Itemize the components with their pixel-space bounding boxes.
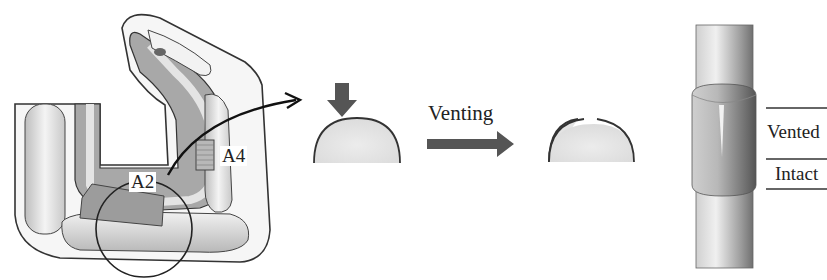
finger-anatomy-illustration	[0, 0, 827, 280]
pulley-label-a4: A4	[220, 146, 247, 166]
intact-dome	[314, 118, 400, 163]
venting-label: Venting	[428, 101, 493, 126]
pulley-label-a2: A2	[129, 172, 156, 192]
vented-label: Vented	[767, 121, 820, 143]
intact-label: Intact	[775, 163, 818, 185]
